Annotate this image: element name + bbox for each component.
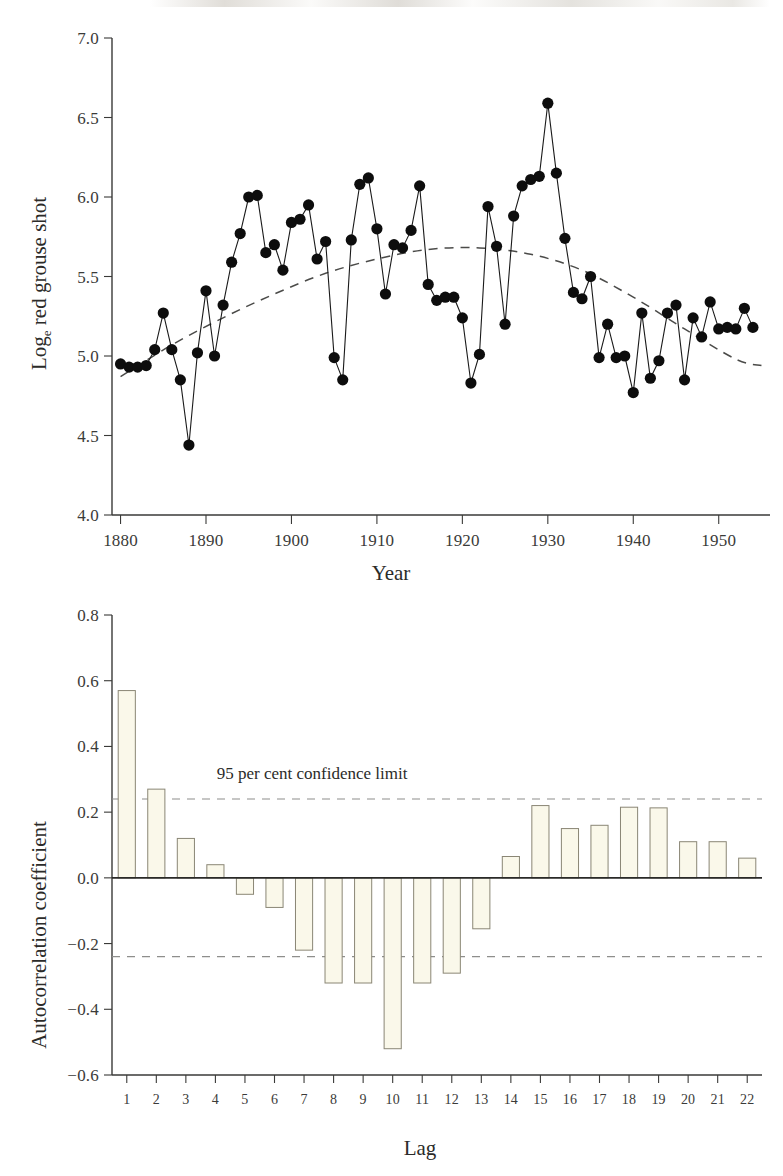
data-point [397, 242, 408, 253]
data-point [380, 288, 391, 299]
x-tick-label: 6 [271, 1092, 278, 1107]
acf-bar [502, 857, 519, 878]
x-tick-label: 4 [212, 1092, 219, 1107]
data-point [585, 271, 596, 282]
data-point [551, 168, 562, 179]
x-tick-label: 19 [651, 1092, 665, 1107]
data-point [260, 247, 271, 258]
acf-bar [680, 842, 697, 878]
acf-bar [325, 878, 342, 983]
panel-autocorrelation: Autocorrelation coefficient −0.6−0.4−0.2… [0, 595, 783, 1176]
data-point [739, 303, 750, 314]
acf-bar [561, 829, 578, 878]
acf-bar [148, 789, 165, 878]
data-point [294, 214, 305, 225]
acf-bar [355, 878, 372, 983]
data-point [226, 257, 237, 268]
data-point [662, 307, 673, 318]
data-point [747, 322, 758, 333]
acf-bar [739, 858, 756, 878]
x-tick-label: 14 [504, 1092, 518, 1107]
data-point [508, 210, 519, 221]
data-point [183, 439, 194, 450]
acf-bar [591, 825, 608, 878]
confidence-limit-label: 95 per cent confidence limit [217, 764, 408, 783]
x-tick-label: 18 [622, 1092, 636, 1107]
acf-bar [650, 808, 667, 878]
timeseries-series-line [121, 103, 753, 445]
acf-bar [295, 878, 312, 950]
x-tick-label: 20 [681, 1092, 695, 1107]
data-point [346, 234, 357, 245]
data-point [141, 360, 152, 371]
data-point [576, 293, 587, 304]
data-point [559, 233, 570, 244]
data-point [166, 344, 177, 355]
x-tick-label: 12 [445, 1092, 459, 1107]
acf-bar [384, 878, 401, 1049]
data-point [542, 98, 553, 109]
data-point [705, 296, 716, 307]
acf-bar [620, 807, 637, 878]
y-tick-label: 6.5 [77, 109, 99, 128]
acf-bar [177, 838, 194, 877]
data-point [320, 236, 331, 247]
x-tick-label: 10 [385, 1092, 399, 1107]
data-point [687, 312, 698, 323]
data-point [534, 171, 545, 182]
acf-bar [709, 842, 726, 878]
data-point [499, 319, 510, 330]
data-point [371, 223, 382, 234]
data-point [593, 352, 604, 363]
y-tick-label: −0.2 [67, 935, 99, 954]
x-tick-label: 3 [182, 1092, 189, 1107]
data-point [405, 225, 416, 236]
y-tick-label: 6.0 [77, 188, 99, 207]
timeseries-y-axis: 4.04.55.05.56.06.57.0 [77, 29, 112, 525]
acf-bar [443, 878, 460, 973]
y-tick-label: 5.0 [77, 347, 99, 366]
data-point [696, 331, 707, 342]
data-point [175, 374, 186, 385]
data-point [311, 253, 322, 264]
data-point [670, 300, 681, 311]
data-point [414, 180, 425, 191]
acf-annotation: 95 per cent confidence limit [217, 764, 408, 783]
y-tick-label: −0.6 [67, 1066, 99, 1085]
data-point [457, 312, 468, 323]
data-point [636, 307, 647, 318]
data-point [329, 352, 340, 363]
x-tick-label: 15 [533, 1092, 547, 1107]
y-tick-label: 0.8 [77, 606, 99, 625]
acf-bar [532, 806, 549, 878]
acf-bar [207, 865, 224, 878]
acf-y-axis: −0.6−0.4−0.20.00.20.40.60.8 [67, 606, 112, 1085]
acf-bar [414, 878, 431, 983]
data-point [235, 228, 246, 239]
data-point [448, 292, 459, 303]
y-tick-label: 0.2 [77, 803, 99, 822]
y-axis-title-rest: red grouse shot [27, 197, 51, 331]
x-tick-label: 16 [563, 1092, 577, 1107]
acf-bar [236, 878, 253, 894]
x-tick-label: 1910 [360, 531, 395, 550]
data-point [217, 300, 228, 311]
y-tick-label: 0.0 [77, 869, 99, 888]
x-tick-label: 1920 [445, 531, 480, 550]
x-tick-label: 1950 [701, 531, 736, 550]
y-tick-label: 0.6 [77, 672, 99, 691]
data-point [474, 349, 485, 360]
x-tick-label: 1900 [274, 531, 309, 550]
x-tick-label: 1930 [530, 531, 565, 550]
acf-bar [118, 691, 135, 878]
data-point [730, 323, 741, 334]
data-point [482, 201, 493, 212]
data-point [158, 307, 169, 318]
data-point [303, 199, 314, 210]
y-tick-label: 5.5 [77, 268, 99, 287]
data-point [619, 350, 630, 361]
acf-bars [118, 691, 756, 1049]
x-tick-label: 2 [153, 1092, 160, 1107]
data-point [200, 285, 211, 296]
x-tick-label: 1940 [616, 531, 651, 550]
